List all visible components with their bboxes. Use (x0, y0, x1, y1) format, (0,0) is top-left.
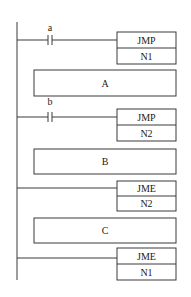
jmp-n1-operand: N1 (140, 51, 152, 62)
jme-n1-instruction: JME (137, 251, 156, 262)
block-a-label: A (101, 78, 109, 89)
rung-jme-n1: JME N1 (17, 248, 176, 280)
block-b-label: B (102, 156, 109, 167)
block-c: C (34, 218, 176, 243)
rung-jmp-n2: b JMP N2 (17, 96, 176, 141)
block-b: B (34, 149, 176, 174)
block-a: A (34, 70, 176, 96)
rung-jmp-n1: a JMP N1 (17, 22, 176, 64)
jme-n2-instruction: JME (137, 183, 156, 194)
jmp-n1-instruction: JMP (137, 35, 156, 46)
contact-b-label: b (48, 96, 53, 107)
contact-a-label: a (48, 22, 53, 33)
ladder-diagram: a JMP N1 A b JMP N2 B JME N2 C (0, 0, 191, 297)
block-c-label: C (102, 225, 109, 236)
jme-n1-operand: N1 (140, 267, 152, 278)
jmp-n2-operand: N2 (140, 128, 152, 139)
jmp-n2-instruction: JMP (137, 112, 156, 123)
jme-n2-operand: N2 (140, 198, 152, 209)
rung-jme-n2: JME N2 (17, 181, 176, 211)
